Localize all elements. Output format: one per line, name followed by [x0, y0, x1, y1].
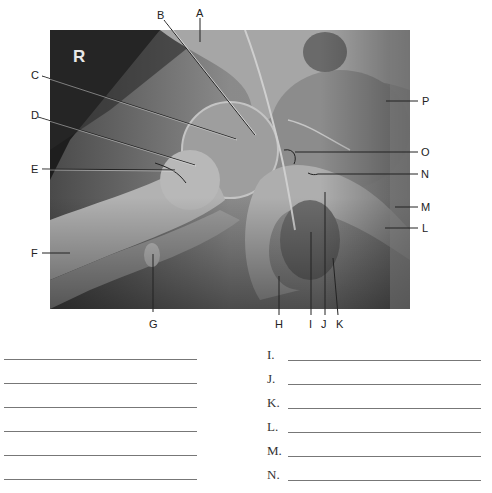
callout-label-c: C: [31, 69, 39, 81]
hip-xray-image: [50, 30, 410, 309]
answer-line[interactable]: [4, 359, 197, 360]
answer-letter-l: L.: [267, 419, 278, 435]
callout-label-d: D: [31, 109, 39, 121]
answer-line[interactable]: [4, 479, 197, 480]
answer-blank-k[interactable]: K.: [264, 400, 492, 414]
answer-line[interactable]: [4, 455, 197, 456]
answer-blank-n[interactable]: N.: [264, 472, 492, 486]
answer-blank-left-3[interactable]: [0, 400, 200, 414]
answer-blank-j[interactable]: J.: [264, 376, 492, 390]
answer-line[interactable]: [288, 384, 481, 385]
answer-blank-left-6[interactable]: [0, 472, 200, 486]
answer-blank-left-2[interactable]: [0, 376, 200, 390]
callout-label-n: N: [421, 168, 429, 180]
answer-line[interactable]: [4, 407, 197, 408]
answer-blank-l[interactable]: L.: [264, 424, 492, 438]
callout-label-b: B: [157, 9, 164, 21]
answer-blank-left-4[interactable]: [0, 424, 200, 438]
answer-line[interactable]: [288, 456, 481, 457]
xray-graphic: [50, 30, 410, 309]
answer-blank-i[interactable]: I.: [264, 352, 492, 366]
callout-label-f: F: [31, 247, 38, 259]
callout-label-j: J: [321, 318, 327, 330]
answer-line[interactable]: [4, 383, 197, 384]
callout-label-a: A: [196, 7, 203, 19]
callout-label-h: H: [275, 318, 283, 330]
answer-letter-k: K.: [267, 395, 280, 411]
callout-label-e: E: [31, 163, 38, 175]
callout-label-i: I: [309, 318, 312, 330]
answer-letter-j: J.: [267, 371, 275, 387]
callout-label-p: P: [422, 95, 429, 107]
callout-label-k: K: [336, 318, 343, 330]
answer-blank-left-5[interactable]: [0, 448, 200, 462]
answer-line[interactable]: [4, 431, 197, 432]
callout-label-m: M: [421, 201, 430, 213]
answer-line[interactable]: [288, 360, 481, 361]
callout-label-g: G: [149, 318, 158, 330]
answer-letter-m: M.: [267, 443, 282, 459]
answer-blank-m[interactable]: M.: [264, 448, 492, 462]
answer-line[interactable]: [288, 480, 481, 481]
answer-letter-n: N.: [267, 467, 280, 483]
callout-label-l: L: [422, 222, 428, 234]
answer-line[interactable]: [288, 432, 481, 433]
orientation-marker-right: R: [73, 47, 85, 67]
answer-letter-i: I.: [267, 347, 275, 363]
answer-blank-left-1[interactable]: [0, 352, 200, 366]
callout-label-o: O: [421, 146, 430, 158]
answer-line[interactable]: [288, 408, 481, 409]
